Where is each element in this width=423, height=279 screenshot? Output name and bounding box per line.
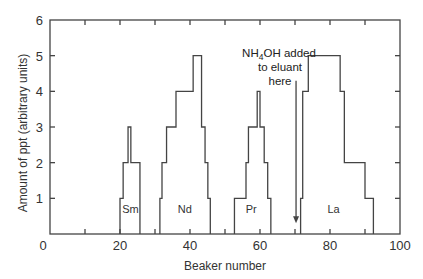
y-tick-label: 2 [36, 156, 43, 171]
plot-border [50, 20, 400, 234]
peak-label-la: La [327, 203, 340, 215]
elution-chart: 020406080100 123456 SmNdPrLa Beaker numb… [0, 0, 423, 279]
x-tick-label: 80 [323, 238, 337, 253]
arrow-down-icon [293, 81, 299, 224]
peak-label-nd: Nd [178, 203, 192, 215]
x-tick-label: 20 [113, 238, 127, 253]
x-axis-title: Beaker number [184, 259, 266, 273]
annotation-line-3: here [268, 75, 291, 87]
x-tick-label: 40 [183, 238, 197, 253]
series-sm [120, 127, 140, 234]
x-tick-label: 0 [39, 238, 46, 253]
annotation-nh4oh: NH4OH added to eluant here [242, 47, 316, 87]
x-tick-labels: 020406080100 [39, 238, 410, 253]
y-axis-title: Amount of ppt (arbitrary units) [16, 54, 30, 213]
y-tick-label: 1 [36, 191, 43, 206]
y-tick-label: 6 [36, 13, 43, 28]
axis-ticks [50, 20, 400, 234]
peak-label-sm: Sm [122, 203, 139, 215]
peak-label-pr: Pr [246, 203, 257, 215]
plot-frame [50, 20, 400, 234]
y-tick-label: 4 [36, 84, 43, 99]
y-tick-labels: 123456 [36, 13, 43, 206]
arrow-head [293, 216, 299, 223]
y-tick-label: 5 [36, 49, 43, 64]
peak-labels: SmNdPrLa [122, 203, 340, 215]
x-tick-label: 60 [253, 238, 267, 253]
y-tick-label: 3 [36, 120, 43, 135]
annotation-line-1: NH4OH added [242, 47, 316, 62]
x-tick-label: 100 [389, 238, 411, 253]
annotation-line-2: to eluant [258, 61, 303, 73]
